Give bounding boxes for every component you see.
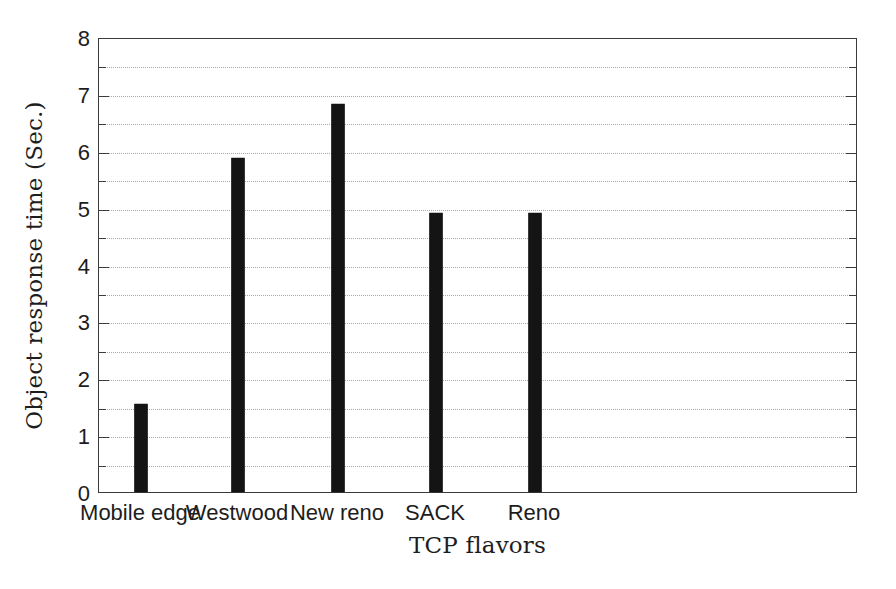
y-axis-minor-tick-right bbox=[849, 124, 856, 125]
y-axis-major-tick-right bbox=[846, 323, 856, 324]
y-axis-major-tick-right bbox=[846, 267, 856, 268]
y-axis-major-tick-right bbox=[846, 437, 856, 438]
gridline bbox=[99, 96, 856, 97]
gridline bbox=[99, 124, 856, 125]
y-axis-major-tick-right bbox=[846, 96, 856, 97]
y-axis-major-tick-right bbox=[846, 153, 856, 154]
y-axis-major-tick bbox=[99, 380, 109, 381]
y-axis-minor-tick bbox=[99, 181, 106, 182]
y-axis-minor-tick-right bbox=[849, 409, 856, 410]
y-axis-minor-tick bbox=[99, 238, 106, 239]
gridline bbox=[99, 238, 856, 239]
y-axis-tick-label: 5 bbox=[78, 199, 90, 221]
y-axis-major-tick bbox=[99, 210, 109, 211]
y-axis-major-tick bbox=[99, 153, 109, 154]
gridline bbox=[99, 210, 856, 211]
y-axis-major-tick bbox=[99, 437, 109, 438]
gridline bbox=[99, 409, 856, 410]
y-axis-tick-label: 2 bbox=[78, 369, 90, 391]
y-axis-minor-tick-right bbox=[849, 352, 856, 353]
y-axis-major-tick bbox=[99, 96, 109, 97]
y-axis-major-tick-right bbox=[846, 210, 856, 211]
y-axis-tick-label: 6 bbox=[78, 142, 90, 164]
y-axis-minor-tick-right bbox=[849, 466, 856, 467]
gridline bbox=[99, 466, 856, 467]
gridline bbox=[99, 153, 856, 154]
gridline bbox=[99, 380, 856, 381]
gridline bbox=[99, 181, 856, 182]
y-axis-minor-tick bbox=[99, 409, 106, 410]
x-axis-title: TCP flavors bbox=[98, 530, 857, 560]
bar-chart-figure: Object response time (Sec.) 012345678 Mo… bbox=[0, 0, 896, 589]
x-axis-tick-label: Reno bbox=[508, 501, 561, 525]
gridline bbox=[99, 295, 856, 296]
gridline bbox=[99, 323, 856, 324]
x-axis-tick-label: Mobile edge bbox=[80, 501, 200, 525]
y-axis-tick-label: 1 bbox=[78, 426, 90, 448]
y-axis-minor-tick bbox=[99, 67, 106, 68]
y-axis-major-tick bbox=[99, 267, 109, 268]
plot-area: 012345678 bbox=[98, 38, 857, 493]
y-axis-major-tick-right bbox=[846, 380, 856, 381]
y-axis-minor-tick bbox=[99, 466, 106, 467]
y-axis-title: Object response time (Sec.) bbox=[14, 38, 54, 493]
y-axis-minor-tick-right bbox=[849, 295, 856, 296]
bar bbox=[430, 213, 443, 492]
y-axis-tick-label: 4 bbox=[78, 256, 90, 278]
bar bbox=[332, 104, 345, 492]
x-axis-tick-label: Westwood bbox=[186, 501, 288, 525]
y-axis-tick-label: 7 bbox=[78, 85, 90, 107]
gridline bbox=[99, 352, 856, 353]
y-axis-tick-label: 8 bbox=[78, 28, 90, 50]
gridline bbox=[99, 67, 856, 68]
y-axis-major-tick bbox=[99, 323, 109, 324]
y-axis-tick-label: 3 bbox=[78, 312, 90, 334]
y-axis-minor-tick bbox=[99, 124, 106, 125]
y-axis-minor-tick-right bbox=[849, 181, 856, 182]
y-axis-minor-tick bbox=[99, 352, 106, 353]
y-axis-minor-tick bbox=[99, 295, 106, 296]
x-axis-tick-label: SACK bbox=[405, 501, 465, 525]
bar bbox=[232, 158, 245, 492]
gridline bbox=[99, 437, 856, 438]
x-axis-tick-label: New reno bbox=[290, 501, 384, 525]
bar bbox=[529, 213, 542, 492]
y-axis-minor-tick-right bbox=[849, 67, 856, 68]
bar bbox=[135, 404, 148, 492]
gridline bbox=[99, 267, 856, 268]
y-axis-minor-tick-right bbox=[849, 238, 856, 239]
